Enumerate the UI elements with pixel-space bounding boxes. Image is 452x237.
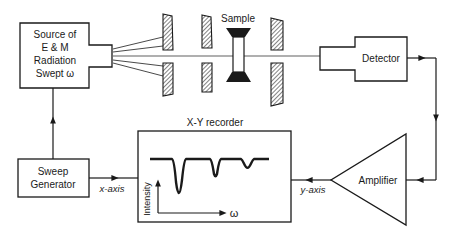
sample-cell: Sample <box>221 13 255 82</box>
radiation-rays <box>113 37 320 76</box>
detector-block: Detector <box>320 37 407 81</box>
intensity-label: Intensity <box>142 182 152 216</box>
detector-label: Detector <box>362 53 400 64</box>
recorder-title: X-Y recorder <box>187 117 244 128</box>
source-label-line-1: Source of <box>34 29 77 40</box>
xy-recorder-block: X-Y recorder Intensity ω <box>138 117 291 222</box>
source-label-line-3: Radiation <box>34 55 76 66</box>
source-label-line-2: E & M <box>41 42 68 53</box>
x-axis-label: x-axis <box>99 183 125 194</box>
source-label-line-4: Swept ω <box>36 68 75 79</box>
slit-3 <box>271 18 283 106</box>
diagram-canvas: Source of E & M Radiation Swept ω Sample… <box>0 0 452 237</box>
slit-1 <box>163 14 173 96</box>
detector-to-amplifier-line <box>406 58 436 180</box>
sweep-generator-block: Sweep Generator <box>18 159 89 197</box>
y-axis-label: y-axis <box>300 184 326 195</box>
source-block: Source of E & M Radiation Swept ω <box>20 23 112 88</box>
sample-label: Sample <box>221 13 255 24</box>
omega-label: ω <box>230 207 239 219</box>
slit-2 <box>202 15 212 92</box>
amplifier-label: Amplifier <box>359 175 399 186</box>
amplifier-block: Amplifier <box>331 134 406 225</box>
spectrometer-diagram: Source of E & M Radiation Swept ω Sample… <box>0 0 452 237</box>
sweep-generator-label-line-2: Generator <box>30 179 76 190</box>
sweep-generator-label-line-1: Sweep <box>38 166 69 177</box>
